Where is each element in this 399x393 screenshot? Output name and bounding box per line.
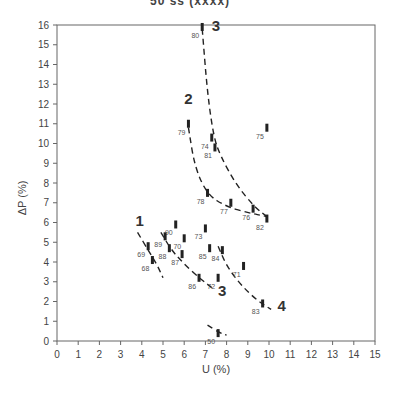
y-tick-label: 14 [38,59,50,70]
y-tick-label: 8 [43,178,49,189]
data-point-marker [204,224,207,232]
data-point-label: 73 [195,233,203,240]
scatter-chart: 0123456789101112131415012345678910111213… [0,0,399,393]
y-tick-label: 1 [43,316,49,327]
x-axis-label: U (%) [202,363,230,375]
y-tick-label: 2 [43,296,49,307]
data-point-label: 85 [199,253,207,260]
x-tick-label: 0 [54,349,60,360]
data-point-label: 50 [207,338,215,345]
data-point-marker [181,250,184,258]
y-tick-label: 5 [43,237,49,248]
curve-number-annotation: 3 [218,282,226,299]
x-tick-label: 14 [348,349,360,360]
data-point-marker [229,199,232,207]
data-point-label: 71 [233,271,241,278]
data-point-marker [187,120,190,128]
x-tick-label: 11 [285,349,296,360]
data-point-label: 84 [212,255,220,262]
data-point-label: 80 [191,32,199,39]
x-tick-label: 7 [203,349,209,360]
data-point-label: 79 [178,129,186,136]
data-point-label: 89 [154,241,162,248]
x-tick-label: 1 [75,349,81,360]
data-point-label: 87 [171,259,179,266]
y-tick-label: 12 [38,99,50,110]
data-point-marker [208,244,211,252]
data-point-label: 69 [137,251,145,258]
y-tick-label: 7 [43,197,49,208]
data-point-marker [164,232,167,240]
x-tick-label: 2 [97,349,103,360]
data-point-label: 83 [252,308,260,315]
data-point-marker [206,189,209,197]
y-tick-label: 4 [43,257,49,268]
x-tick-label: 5 [160,349,166,360]
x-tick-label: 4 [139,349,145,360]
y-tick-label: 11 [39,118,50,129]
data-point-marker [183,234,186,242]
data-point-label: 74 [201,143,209,150]
data-point-label: 75 [256,133,264,140]
data-point-label: 82 [256,224,264,231]
y-tick-label: 16 [38,20,50,31]
data-point-label: 70 [173,243,181,250]
data-point-label: 81 [204,152,212,159]
data-point-marker [168,244,171,252]
data-point-marker [201,23,204,31]
x-tick-label: 8 [224,349,230,360]
y-tick-label: 6 [43,217,49,228]
data-point-marker [147,242,150,250]
data-point-marker [265,215,268,223]
data-point-marker [221,246,224,254]
data-point-marker [242,262,245,270]
data-point-marker [210,134,213,142]
data-point-label: 68 [142,265,150,272]
data-point-marker [265,124,268,132]
curve-number-annotation: 2 [184,90,192,107]
data-point-label: 78 [197,198,205,205]
y-tick-label: 3 [43,276,49,287]
data-point-marker [151,256,154,264]
y-tick-label: 13 [38,79,50,90]
data-point-marker [198,274,201,282]
curve-number-annotation: 1 [135,212,143,229]
data-point-marker [261,299,264,307]
x-tick-label: 10 [263,349,275,360]
x-tick-label: 15 [369,349,381,360]
data-point-label: 72 [207,283,215,290]
data-point-marker [217,329,220,337]
data-point-marker [213,143,216,151]
data-point-label: 88 [159,253,167,260]
x-tick-label: 3 [118,349,124,360]
dashed-curve [202,29,267,217]
y-tick-label: 9 [43,158,49,169]
curve-number-annotation: 4 [277,297,286,314]
data-point-label: 77 [220,208,228,215]
data-point-label: 86 [188,283,196,290]
y-tick-label: 15 [38,39,50,50]
curve-number-annotation: 3 [212,17,220,34]
x-tick-label: 12 [306,349,318,360]
x-tick-label: 9 [245,349,251,360]
data-point-marker [252,205,255,213]
x-tick-label: 13 [327,349,339,360]
data-point-marker [174,220,177,228]
y-tick-label: 10 [38,138,50,149]
y-axis-label: ΔP (%) [16,181,28,216]
y-tick-label: 0 [43,336,49,347]
x-tick-label: 6 [181,349,187,360]
plot-frame [57,25,375,341]
data-point-label: 76 [242,214,250,221]
